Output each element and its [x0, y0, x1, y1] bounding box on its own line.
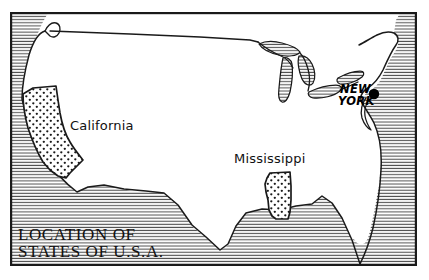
- map-canvas: California Mississippi NEW YORK LOCATION…: [0, 0, 429, 280]
- label-mississippi: Mississippi: [234, 151, 305, 166]
- map-interior: California Mississippi NEW YORK LOCATION…: [0, 0, 429, 280]
- label-california: California: [70, 118, 134, 133]
- new-york-dot-marker: [369, 89, 379, 99]
- location-of-states-map: California Mississippi NEW YORK LOCATION…: [0, 0, 429, 280]
- title-line-2: STATES OF U.S.A.: [18, 242, 164, 261]
